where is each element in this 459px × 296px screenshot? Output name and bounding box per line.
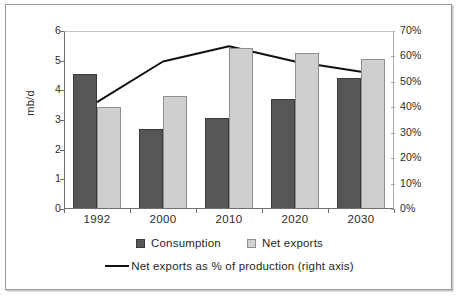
bar-consumption-2030 xyxy=(337,78,361,209)
y-axis-tick-label: 6 xyxy=(35,25,61,35)
y-axis-tick-label: 4 xyxy=(35,84,61,94)
bar-net-exports-2030 xyxy=(361,59,385,209)
x-axis-tick-mark xyxy=(196,209,197,213)
y-axis-tick-label: 5 xyxy=(35,55,61,65)
legend-swatch-line-icon xyxy=(105,265,129,267)
x-axis-tick-label: 2000 xyxy=(130,213,196,225)
y2-axis-tick-label: 30% xyxy=(400,127,446,137)
legend-label-consumption: Consumption xyxy=(151,237,221,249)
y-axis-tick-label: 3 xyxy=(35,114,61,124)
legend-item-consumption: Consumption xyxy=(136,237,221,249)
legend-row-bars: Consumption Net exports xyxy=(6,237,453,249)
legend-label-line-series: Net exports as % of production (right ax… xyxy=(131,260,354,272)
y2-axis-tick-label: 50% xyxy=(400,76,446,86)
legend-swatch-net-exports-icon xyxy=(247,239,256,248)
y2-axis-tick-label: 60% xyxy=(400,50,446,60)
x-axis-tick-mark xyxy=(262,209,263,213)
bar-net-exports-2020 xyxy=(295,53,319,209)
x-axis-tick-label: 2020 xyxy=(262,213,328,225)
x-axis-tick-mark xyxy=(328,209,329,213)
bar-net-exports-2000 xyxy=(163,96,187,209)
y-axis-title: mb/d xyxy=(24,73,36,133)
chart-frame: mb/d 0123456 0%10%20%30%40%50%60%70% 199… xyxy=(5,4,452,290)
y-axis-tick-label: 0 xyxy=(35,203,61,213)
bar-consumption-1992 xyxy=(73,74,97,209)
legend-swatch-consumption-icon xyxy=(136,239,145,248)
y2-axis-tick-label: 40% xyxy=(400,101,446,111)
bar-consumption-2000 xyxy=(139,129,163,209)
legend-item-net-exports: Net exports xyxy=(247,237,323,249)
y-axis-tick-label: 1 xyxy=(35,173,61,183)
y2-axis-tick-label: 20% xyxy=(400,152,446,162)
bar-net-exports-2010 xyxy=(229,48,253,209)
x-axis-tick-label: 2030 xyxy=(328,213,394,225)
y-axis-tick-label: 2 xyxy=(35,144,61,154)
legend-item-line-series: Net exports as % of production (right ax… xyxy=(105,260,354,272)
y2-axis-tick-label: 10% xyxy=(400,178,446,188)
x-axis-tick-label: 1992 xyxy=(64,213,130,225)
x-axis-tick-label: 2010 xyxy=(196,213,262,225)
x-axis-tick-mark xyxy=(64,209,65,213)
bar-consumption-2020 xyxy=(271,99,295,209)
plot-area xyxy=(64,31,394,209)
bar-net-exports-1992 xyxy=(97,107,121,209)
y2-axis-tick-label: 70% xyxy=(400,25,446,35)
bar-consumption-2010 xyxy=(205,118,229,209)
x-axis-tick-mark xyxy=(130,209,131,213)
chart-canvas: mb/d 0123456 0%10%20%30%40%50%60%70% 199… xyxy=(6,5,453,291)
x-axis-tick-mark xyxy=(394,209,395,213)
legend-label-net-exports: Net exports xyxy=(262,237,323,249)
y2-axis-tick-label: 0% xyxy=(400,203,446,213)
legend-row-line: Net exports as % of production (right ax… xyxy=(6,260,453,272)
